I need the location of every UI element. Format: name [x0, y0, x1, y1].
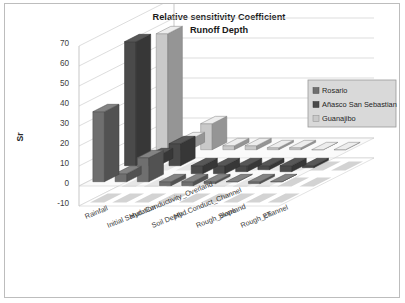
bar-front-face [182, 182, 194, 186]
legend-item-label[interactable]: Añasco San Sebastian [322, 100, 397, 109]
bar-front-face [302, 166, 314, 168]
bar-side-face [136, 34, 151, 165]
bar-front-face [245, 146, 257, 150]
legend-swatch-icon [313, 116, 319, 122]
chart-frame: Relative sensitivity Coefficient Runoff … [4, 3, 400, 298]
y-tick: 60 [60, 59, 70, 68]
bar-front-face [267, 148, 279, 150]
legend-swatch-icon [313, 88, 319, 94]
bar-side-face [104, 104, 119, 181]
bar-front-face [160, 182, 172, 186]
x-axis-category-label: Slope [217, 206, 237, 221]
y-tick: 40 [60, 99, 70, 108]
chart-canvas: Relative sensitivity Coefficient Runoff … [5, 4, 401, 299]
bar [125, 34, 151, 165]
bar-front-face [125, 42, 137, 166]
bar [93, 104, 119, 181]
y-tick: 50 [60, 79, 70, 88]
chart-subtitle: Runoff Depth [190, 25, 249, 35]
y-tick: 0 [64, 179, 69, 188]
bar-side-face [168, 26, 183, 149]
bar-front-face [191, 166, 203, 174]
y-axis-ticks: 70 60 50 40 30 20 10 0 -10 [57, 39, 69, 208]
bar-front-face [290, 148, 302, 150]
chart-title: Relative sensitivity Coefficient [153, 12, 286, 22]
bar-front-face [156, 34, 168, 150]
bar-front-face [258, 166, 270, 170]
y-tick: -10 [57, 199, 69, 208]
bar-front-face [93, 112, 105, 182]
y-tick: 20 [60, 139, 70, 148]
legend-item-label[interactable]: Rosario [322, 86, 347, 95]
bar [156, 26, 182, 149]
bar-front-face [280, 166, 292, 172]
chart-legend[interactable]: RosarioAñasco San SebastianGuanajibo [308, 80, 397, 127]
y-axis-title-group: Sr [15, 132, 25, 142]
bar-front-face [248, 182, 260, 184]
bar-front-face [223, 146, 235, 150]
y-tick: 30 [60, 119, 70, 128]
legend-swatch-icon [313, 102, 319, 108]
y-tick: 10 [60, 159, 70, 168]
y-tick: 70 [60, 39, 70, 48]
legend-item-label[interactable]: Guanajibo [322, 114, 356, 123]
y-axis-title: Sr [15, 132, 25, 142]
